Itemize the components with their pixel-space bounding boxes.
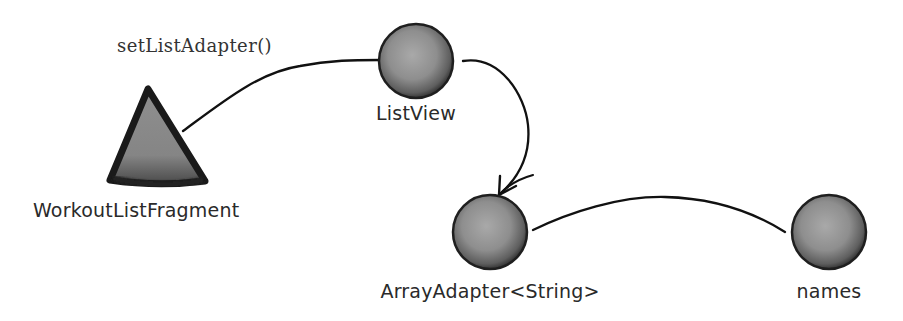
node-label-names: names	[797, 282, 862, 301]
edge-listview-to-arrayadapter	[463, 60, 528, 194]
edge-arrayadapter-to-names	[533, 197, 785, 232]
circle-node-listview	[379, 24, 453, 98]
node-label-listview: ListView	[376, 104, 456, 123]
circle-node-arrayadapter	[453, 195, 527, 269]
node-label-arrayadapter: ArrayAdapter<String>	[380, 282, 599, 301]
diagram-canvas: setListAdapter() ListView WorkoutListFra…	[0, 0, 903, 321]
edge-fragment-to-listview	[183, 60, 380, 131]
triangle-node-workoutlistfragment	[110, 89, 205, 185]
circle-node-names	[792, 195, 866, 269]
method-call-label: setListAdapter()	[117, 37, 272, 55]
node-label-workoutlistfragment: WorkoutListFragment	[33, 201, 239, 220]
